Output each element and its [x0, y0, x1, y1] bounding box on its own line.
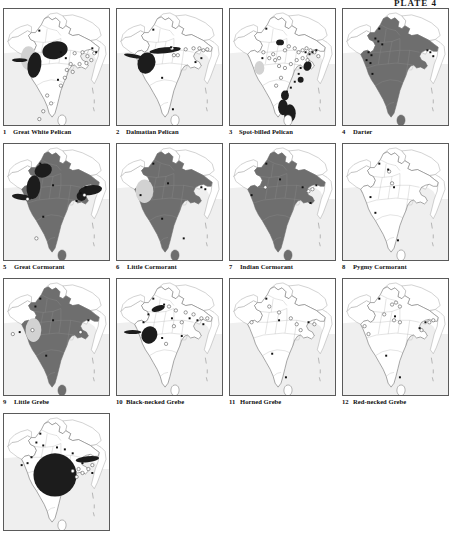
- map-caption-5: 5Great Cormorant: [3, 263, 111, 270]
- map-caption-2: 2Dalmatian Pelican: [116, 128, 224, 135]
- map-number: 2: [116, 128, 124, 135]
- species-name: Red-necked Grebe: [353, 398, 406, 405]
- species-name: Great White Pelican: [13, 128, 71, 135]
- map-caption-8: 8Pygmy Cormorant: [342, 263, 450, 270]
- map-cell-8: 8Pygmy Cormorant: [342, 143, 450, 270]
- distribution-map-1[interactable]: [3, 8, 110, 126]
- distribution-map-5[interactable]: [3, 143, 110, 261]
- map-cell-5: 5Great Cormorant: [3, 143, 111, 270]
- map-cell-4: 4Darter: [342, 8, 450, 135]
- distribution-map-8[interactable]: [342, 143, 449, 261]
- distribution-map-6[interactable]: [116, 143, 223, 261]
- distribution-map-9[interactable]: [3, 278, 110, 396]
- distribution-map-2[interactable]: [116, 8, 223, 126]
- map-cell-11: 11Horned Grebe: [229, 278, 337, 405]
- map-number: 5: [3, 263, 11, 270]
- map-cell-1: 1Great White Pelican: [3, 8, 111, 135]
- map-number: 9: [3, 398, 11, 405]
- map-number: 7: [229, 263, 237, 270]
- map-cell-3: 3Spot-billed Pelican: [229, 8, 337, 135]
- map-caption-6: 6Little Cormorant: [116, 263, 224, 270]
- distribution-map-3[interactable]: [229, 8, 336, 126]
- map-caption-4: 4Darter: [342, 128, 450, 135]
- map-caption-1: 1Great White Pelican: [3, 128, 111, 135]
- species-name: Horned Grebe: [240, 398, 281, 405]
- species-name: Pygmy Cormorant: [353, 263, 407, 270]
- map-caption-12: 12Red-necked Grebe: [342, 398, 450, 405]
- map-number: 3: [229, 128, 237, 135]
- map-caption-9: 9Little Grebe: [3, 398, 111, 405]
- map-number: 6: [116, 263, 124, 270]
- map-cell-2: 2Dalmatian Pelican: [116, 8, 224, 135]
- species-name: Great Cormorant: [14, 263, 65, 270]
- map-number: 11: [229, 398, 237, 405]
- map-cell-12: 12Red-necked Grebe: [342, 278, 450, 405]
- map-cell-13: [3, 413, 111, 531]
- plate-label: PLATE 4: [0, 0, 451, 8]
- map-number: 12: [342, 398, 350, 405]
- distribution-map-10[interactable]: [116, 278, 223, 396]
- species-name: Little Grebe: [14, 398, 49, 405]
- map-cell-10: 10Black-necked Grebe: [116, 278, 224, 405]
- distribution-map-grid: 1Great White Pelican2Dalmatian Pelican3S…: [3, 8, 449, 536]
- distribution-map-4[interactable]: [342, 8, 449, 126]
- map-caption-7: 7Indian Cormorant: [229, 263, 337, 270]
- species-name: Dalmatian Pelican: [126, 128, 179, 135]
- distribution-map-7[interactable]: [229, 143, 336, 261]
- species-name: Black-necked Grebe: [126, 398, 184, 405]
- map-caption-11: 11Horned Grebe: [229, 398, 337, 405]
- map-number: 8: [342, 263, 350, 270]
- map-cell-7: 7Indian Cormorant: [229, 143, 337, 270]
- map-caption-3: 3Spot-billed Pelican: [229, 128, 337, 135]
- map-number: 10: [116, 398, 124, 405]
- distribution-map-11[interactable]: [229, 278, 336, 396]
- map-number: 4: [342, 128, 350, 135]
- species-name: Darter: [353, 128, 372, 135]
- map-number: 1: [3, 128, 11, 135]
- map-cell-9: 9Little Grebe: [3, 278, 111, 405]
- species-name: Indian Cormorant: [240, 263, 293, 270]
- distribution-map-12[interactable]: [342, 278, 449, 396]
- map-caption-10: 10Black-necked Grebe: [116, 398, 224, 405]
- map-cell-6: 6Little Cormorant: [116, 143, 224, 270]
- species-name: Little Cormorant: [127, 263, 177, 270]
- distribution-map-13[interactable]: [3, 413, 110, 531]
- species-name: Spot-billed Pelican: [239, 128, 293, 135]
